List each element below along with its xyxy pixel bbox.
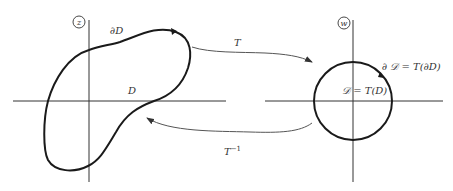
region-d-label: D [127,85,136,96]
w-plane-label: w [341,19,348,28]
inverse-map-arrow [147,118,312,132]
forward-map: T [192,37,312,62]
forward-map-arrow [192,47,312,62]
inverse-map-label: T−1 [224,145,241,157]
boundary-d-label: ∂D [110,25,123,36]
region-d-boundary [44,30,190,171]
disk-region-label: 𝒟 = T(D) [342,85,387,96]
conformal-map-diagram: z ∂D D w ∂ 𝒟 = T(∂D) 𝒟 = T(D) T T−1 [0,0,453,191]
boundary-direction-arrow-icon [171,28,177,35]
w-plane-badge: w [338,17,350,29]
z-plane: z ∂D D [13,16,226,182]
inverse-map-label-exponent: −1 [231,145,241,153]
w-plane: w ∂ 𝒟 = T(∂D) 𝒟 = T(D) [265,17,443,182]
forward-map-label: T [234,37,242,48]
disk-boundary-label: ∂ 𝒟 = T(∂D) [382,61,441,72]
z-plane-badge: z [73,16,85,28]
z-plane-label: z [76,18,82,27]
inverse-map: T−1 [147,118,312,157]
